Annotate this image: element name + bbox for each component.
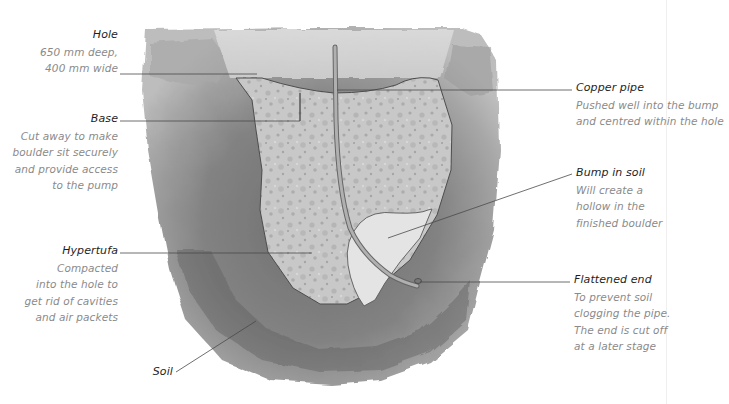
- flattened-end-shape: [415, 279, 422, 284]
- label-flattened-end-line: The end is cut off: [574, 322, 670, 339]
- label-hypertufa-title: Hypertufa: [25, 243, 118, 260]
- label-copper-pipe-line: and centred within the hole: [576, 113, 724, 130]
- label-flattened-end: Flattened end To prevent soil clogging t…: [574, 272, 670, 355]
- label-base-title: Base: [12, 111, 118, 128]
- label-bump-in-soil-line: Will create a: [576, 182, 662, 199]
- label-bump-in-soil-line: finished boulder: [576, 215, 662, 232]
- label-soil-title: Soil: [153, 364, 173, 381]
- label-copper-pipe: Copper pipe Pushed well into the bump an…: [576, 80, 724, 130]
- label-flattened-end-line: To prevent soil: [574, 289, 670, 306]
- label-hole: Hole 650 mm deep, 400 mm wide: [40, 27, 118, 77]
- label-base: Base Cut away to make boulder sit secure…: [12, 111, 118, 194]
- label-soil: Soil: [153, 364, 173, 381]
- label-base-line: and provide access: [12, 161, 118, 178]
- label-hole-title: Hole: [40, 27, 118, 44]
- diagram-stage: Hole 650 mm deep, 400 mm wide Base Cut a…: [0, 0, 729, 404]
- label-hypertufa-line: get rid of cavities: [25, 293, 118, 310]
- label-base-line: to the pump: [12, 177, 118, 194]
- label-hypertufa: Hypertufa Compacted into the hole to get…: [25, 243, 118, 326]
- label-bump-in-soil-title: Bump in soil: [576, 165, 662, 182]
- label-bump-in-soil-line: hollow in the: [576, 198, 662, 215]
- label-bump-in-soil: Bump in soil Will create a hollow in the…: [576, 165, 662, 231]
- label-flattened-end-line: clogging the pipe.: [574, 305, 670, 322]
- label-hypertufa-line: Compacted: [25, 260, 118, 277]
- label-copper-pipe-title: Copper pipe: [576, 80, 724, 97]
- label-base-line: boulder sit securely: [12, 144, 118, 161]
- label-flattened-end-title: Flattened end: [574, 272, 670, 289]
- label-hypertufa-line: into the hole to: [25, 276, 118, 293]
- label-flattened-end-line: at a later stage: [574, 338, 670, 355]
- label-hypertufa-line: and air packets: [25, 309, 118, 326]
- label-hole-line: 650 mm deep,: [40, 44, 118, 61]
- label-hole-line: 400 mm wide: [40, 60, 118, 77]
- label-base-line: Cut away to make: [12, 128, 118, 145]
- label-copper-pipe-line: Pushed well into the bump: [576, 97, 724, 114]
